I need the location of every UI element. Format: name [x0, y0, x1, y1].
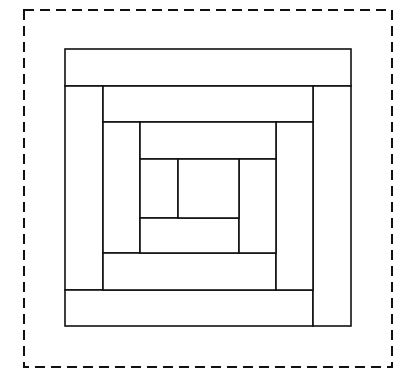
quilt-piece-top-strip-1: [65, 49, 351, 86]
quilt-pieces: [65, 49, 351, 326]
quilt-piece-left-strip-3: [140, 159, 178, 218]
quilt-piece-right-strip-1: [313, 86, 351, 326]
quilt-piece-bottom-strip-2: [103, 253, 276, 290]
quilt-piece-bottom-strip-1: [65, 290, 313, 326]
quilt-piece-top-strip-3: [140, 122, 276, 159]
quilt-piece-right-strip-2: [276, 122, 313, 290]
quilt-piece-center-square: [178, 159, 239, 218]
quilt-block-diagram: [0, 0, 416, 384]
quilt-piece-left-strip-1: [65, 86, 103, 290]
quilt-piece-top-strip-2: [103, 86, 313, 122]
quilt-piece-right-strip-3: [239, 159, 276, 253]
quilt-piece-left-strip-2: [103, 122, 140, 253]
quilt-piece-bottom-strip-3: [140, 218, 239, 253]
